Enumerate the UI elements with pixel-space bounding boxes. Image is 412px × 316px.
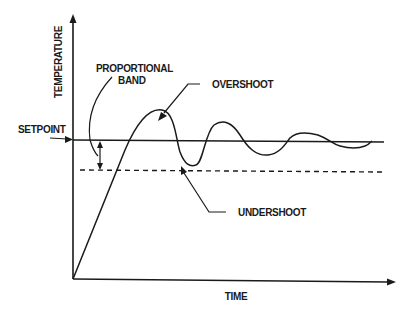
x-axis-arrow-icon	[387, 279, 396, 286]
undershoot-label: UNDERSHOOT	[238, 207, 306, 218]
setpoint-arrow-icon	[65, 136, 73, 143]
temperature-control-diagram: TEMPERATURE TIME SETPOINT PROPORTIONAL B…	[0, 0, 412, 316]
undershoot-pointer	[181, 166, 226, 212]
overshoot-arrow-icon	[158, 112, 167, 121]
y-axis-arrow-icon	[70, 14, 77, 23]
x-axis-label: TIME	[225, 291, 248, 302]
setpoint-label: SETPOINT	[18, 124, 66, 135]
overshoot-label: OVERSHOOT	[212, 79, 273, 90]
proportional-band-label-line1: PROPORTIONAL	[96, 63, 173, 74]
band-down-arrow-icon	[97, 163, 103, 170]
setpoint-line	[73, 140, 384, 142]
proportional-band-label-line2: BAND	[118, 75, 146, 86]
proportional-band-lower-line	[80, 170, 384, 172]
y-axis	[70, 14, 77, 279]
band-up-arrow-icon	[97, 141, 103, 148]
temperature-response-curve	[73, 110, 372, 279]
overshoot-pointer	[158, 84, 200, 121]
x-axis	[73, 279, 396, 286]
setpoint-pointer	[50, 136, 73, 143]
y-axis-label: TEMPERATURE	[53, 25, 64, 98]
